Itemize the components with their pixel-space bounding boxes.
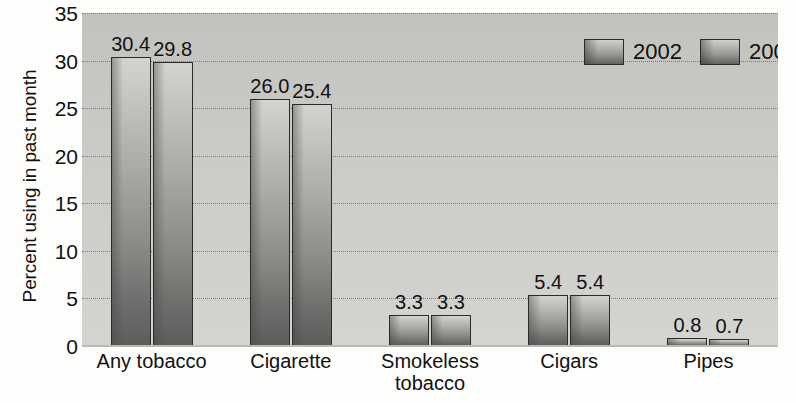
y-axis-tick-label: 30	[26, 50, 78, 71]
y-axis-tick-label: 5	[26, 288, 78, 309]
x-axis-tick-label: Cigars	[540, 350, 598, 372]
bar-value-label: 5.4	[534, 272, 562, 292]
bar	[528, 295, 568, 346]
bar-value-label: 0.8	[673, 315, 701, 335]
bar-value-label: 30.4	[111, 34, 150, 54]
y-axis-tick-labels: 05101520253035	[26, 0, 78, 403]
y-axis-tick-label: 20	[26, 145, 78, 166]
legend: 20022003	[584, 39, 778, 65]
x-axis-tick-labels: Any tobaccoCigaretteSmokeless tobaccoCig…	[82, 350, 778, 403]
bar-value-label: 26.0	[250, 76, 289, 96]
y-axis-tick-label: 35	[26, 3, 78, 24]
bar	[570, 295, 610, 346]
bar-value-label: 3.3	[395, 292, 423, 312]
y-axis-tick-label: 15	[26, 193, 78, 214]
bar	[153, 62, 193, 346]
x-axis-tick-label: Pipes	[683, 350, 733, 372]
bar	[292, 104, 332, 346]
bar	[431, 315, 471, 346]
x-axis-tick-label: Cigarette	[250, 350, 331, 372]
bar-value-label: 0.7	[715, 316, 743, 336]
legend-label: 2003	[749, 41, 778, 63]
bar-chart: Percent using in past month 051015202530…	[0, 0, 796, 403]
x-axis-baseline	[82, 345, 778, 347]
legend-swatch-icon	[584, 39, 624, 65]
legend-swatch-icon	[700, 39, 740, 65]
x-axis-tick-label: Any tobacco	[97, 350, 207, 372]
y-axis-tick-label: 0	[26, 336, 78, 357]
legend-entry: 2002	[584, 39, 682, 65]
plot-area: 30.429.826.025.43.33.35.45.40.80.7 20022…	[82, 13, 778, 346]
legend-label: 2002	[633, 41, 682, 63]
bar-value-label: 3.3	[437, 292, 465, 312]
bar-value-label: 29.8	[153, 39, 192, 59]
x-axis-tick-label: Smokeless tobacco	[381, 350, 479, 395]
bar	[111, 57, 151, 346]
bar	[389, 315, 429, 346]
y-axis-tick-label: 25	[26, 98, 78, 119]
bar-value-label: 25.4	[292, 81, 331, 101]
legend-entry: 2003	[700, 39, 778, 65]
bar	[250, 99, 290, 346]
y-axis-tick-label: 10	[26, 240, 78, 261]
bar-value-label: 5.4	[576, 272, 604, 292]
